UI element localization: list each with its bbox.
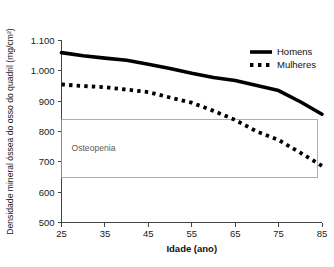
x-tick-label: 85 [317,228,328,239]
y-axis: 5006007008009001.0001.100 [31,35,62,228]
legend-label-mulheres: Mulheres [277,59,316,70]
x-axis-title: Idade (ano) [166,243,217,254]
x-tick-label: 55 [186,228,197,239]
legend-label-homens: Homens [277,46,313,57]
y-tick-label: 500 [39,217,55,228]
x-axis: 25354555657585 [56,223,327,240]
y-tick-label: 1.100 [31,35,55,46]
osteopenia-band-label: Osteopenia [72,143,116,153]
chart-legend: Homens Mulheres [250,46,316,70]
bone-density-line-chart: 5006007008009001.0001.100 25354555657585… [0,0,334,267]
y-axis-title: Densidade mineral óssea do osso do quadr… [5,28,15,234]
x-tick-label: 45 [143,228,154,239]
y-axis-ticks: 5006007008009001.0001.100 [31,35,62,228]
x-tick-label: 65 [230,228,241,239]
y-tick-label: 1.000 [31,65,55,76]
chart-container: 5006007008009001.0001.100 25354555657585… [0,0,334,267]
x-axis-ticks: 25354555657585 [56,223,327,240]
x-tick-label: 35 [100,228,111,239]
x-tick-label: 75 [273,228,284,239]
osteopenia-annotation: Osteopenia [62,119,318,177]
y-tick-label: 700 [39,156,55,167]
series-line-mulheres [62,84,323,165]
y-tick-label: 900 [39,96,55,107]
y-tick-label: 800 [39,126,55,137]
y-tick-label: 600 [39,187,55,198]
x-tick-label: 25 [56,228,67,239]
